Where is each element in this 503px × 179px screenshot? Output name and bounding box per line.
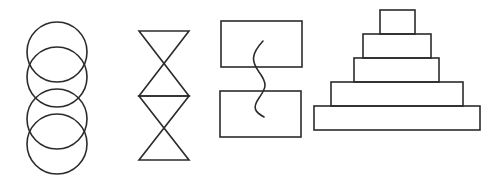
diagram-canvas [0,0,503,179]
pyramid-tier [331,82,463,106]
circle-shape [27,114,87,174]
hourglass-shape [139,96,189,160]
circle-shape [27,22,87,82]
pyramid-tier [314,106,480,130]
circle-shape [27,89,87,149]
hourglass-shape [139,31,189,96]
pyramid-tier [380,10,415,34]
stacked-circles-figure [27,22,87,174]
wavy-line [253,41,265,117]
pyramid-tier [354,58,439,82]
stepped-pyramid-figure [314,10,480,130]
stacked-hourglasses-figure [139,31,189,160]
rectangles-with-wave-figure [220,21,302,137]
rectangle-shape [221,21,302,67]
pyramid-tier [363,34,431,58]
